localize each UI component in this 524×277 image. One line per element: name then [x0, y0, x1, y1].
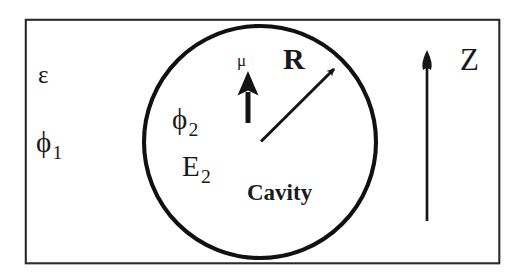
cavity-potential-subscript: 2 — [188, 118, 198, 140]
outer-potential-label: ϕ1 — [36, 128, 61, 157]
cavity-field-symbol: E — [182, 150, 200, 182]
figure-canvas — [0, 0, 524, 277]
cavity-radius-label: R — [283, 44, 305, 74]
cavity-field-label: E2 — [182, 152, 210, 181]
cavity-dielectric-figure: ε ϕ1 ϕ2 E2 μ R Cavity Z — [0, 0, 524, 277]
z-axis-label: Z — [460, 44, 479, 75]
dipole-moment-arrow — [238, 71, 259, 123]
z-axis-arrow — [422, 50, 431, 221]
cavity-circle — [144, 26, 376, 258]
radius-arrow — [261, 69, 334, 142]
cavity-field-subscript: 2 — [201, 165, 211, 187]
dipole-moment-label: μ — [237, 52, 246, 69]
cavity-potential-label: ϕ2 — [172, 105, 197, 134]
cavity-name-label: Cavity — [247, 181, 312, 204]
cavity-potential-symbol: ϕ — [172, 103, 187, 135]
permittivity-label: ε — [38, 62, 49, 87]
outer-potential-symbol: ϕ — [36, 126, 51, 158]
outer-potential-subscript: 1 — [52, 141, 62, 163]
